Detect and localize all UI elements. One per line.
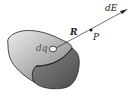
- label-de-text: dE: [105, 3, 117, 13]
- charge-element-dq: [49, 46, 56, 52]
- label-p: P: [93, 33, 99, 42]
- field-arrowhead: [120, 9, 128, 14]
- diagram-canvas: [0, 0, 132, 96]
- label-de: dE: [105, 4, 117, 13]
- label-r: R: [70, 28, 77, 37]
- label-dq: dq: [36, 44, 48, 53]
